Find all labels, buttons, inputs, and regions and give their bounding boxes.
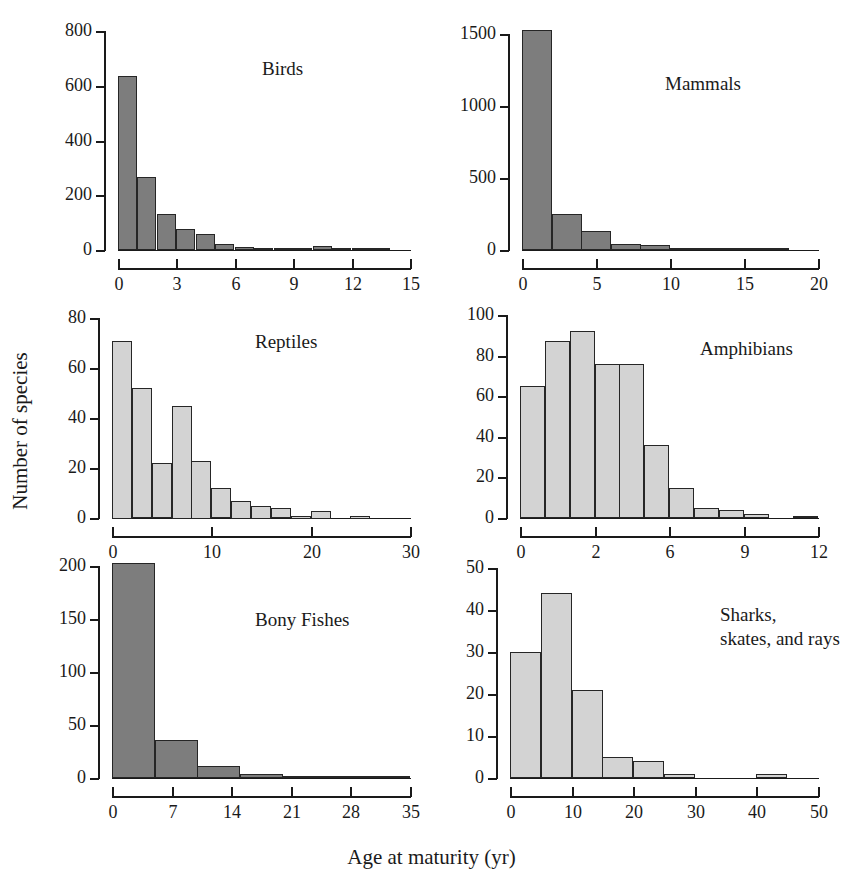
histogram-bar xyxy=(572,690,603,778)
x-tick-label: 0 xyxy=(481,802,541,823)
x-tick-label: 20 xyxy=(604,802,664,823)
x-axis-spine xyxy=(510,796,819,798)
y-tick xyxy=(488,610,497,612)
x-tick xyxy=(633,787,635,797)
y-tick xyxy=(488,652,497,654)
bar-baseline xyxy=(510,778,819,779)
y-tick-label: 30 xyxy=(414,641,484,662)
x-tick-label: 40 xyxy=(727,802,787,823)
y-tick-label: 10 xyxy=(414,725,484,746)
histogram-bar xyxy=(602,757,633,778)
y-tick-label: 20 xyxy=(414,683,484,704)
x-tick xyxy=(695,787,697,797)
y-tick xyxy=(488,736,497,738)
histogram-bar xyxy=(756,774,787,778)
y-tick-label: 40 xyxy=(414,599,484,620)
histogram-bar xyxy=(633,761,664,778)
y-tick xyxy=(488,568,497,570)
x-tick-label: 50 xyxy=(789,802,849,823)
histogram-bar xyxy=(664,774,695,778)
x-tick-label: 30 xyxy=(666,802,726,823)
y-tick xyxy=(488,778,497,780)
x-tick xyxy=(510,787,512,797)
panel-title: Sharks, skates, and rays xyxy=(720,603,840,651)
x-tick-label: 10 xyxy=(543,802,603,823)
y-tick-label: 50 xyxy=(414,557,484,578)
y-tick-label: 0 xyxy=(414,767,484,788)
x-tick xyxy=(756,787,758,797)
y-tick xyxy=(488,694,497,696)
x-tick xyxy=(572,787,574,797)
x-tick xyxy=(818,787,820,797)
figure-six-histograms: Number of species Age at maturity (yr) B… xyxy=(0,0,863,889)
panel-sharks: Sharks, skates, and rays0102030405001020… xyxy=(0,0,863,889)
y-axis-spine xyxy=(496,568,498,779)
histogram-bar xyxy=(510,652,541,778)
histogram-bar xyxy=(541,593,572,778)
